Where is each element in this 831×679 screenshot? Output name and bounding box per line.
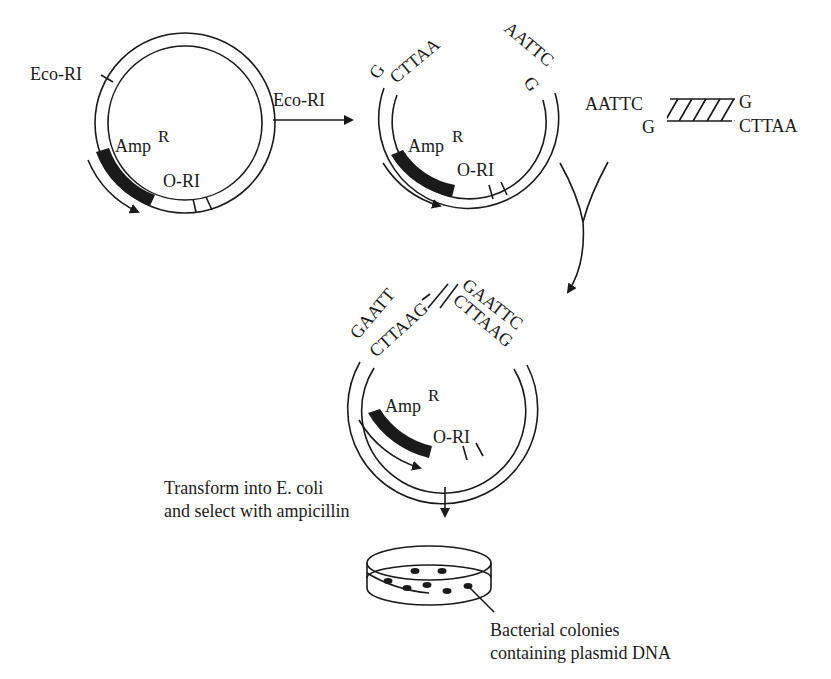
ampr-label: Amp	[408, 136, 444, 156]
ampr-superscript: R	[428, 386, 440, 405]
bacterial-colonies	[384, 568, 473, 594]
right-end-bottom: G	[520, 73, 544, 95]
insert-hatched-block	[667, 99, 735, 121]
plasmid-recombinant: GAATT CTTAAG GAATTC CTTAAG Amp R O-RI	[346, 274, 538, 503]
insert-right-bottom: CTTAA	[739, 116, 798, 136]
digest-step: Eco-RI	[273, 90, 352, 120]
transform-text-line-1: Transform into E. coli	[164, 478, 323, 498]
transform-step: Transform into E. coli and select with a…	[164, 478, 445, 521]
ori-label: O-RI	[433, 427, 470, 447]
ori-label: O-RI	[163, 171, 200, 191]
ori-label: O-RI	[457, 160, 494, 180]
cloning-diagram: Eco-RI Amp R O-RI Eco-RI G CTTAA AATTC G…	[0, 0, 831, 679]
insert-fragment: AATTC G G CTTAA	[585, 92, 798, 137]
petri-dish: Bacterial colonies containing plasmid DN…	[367, 546, 671, 663]
insert-left-bottom: G	[642, 117, 655, 137]
ampr-superscript: R	[158, 127, 170, 146]
ampr-superscript: R	[452, 127, 464, 146]
insert-left-top: AATTC	[585, 94, 643, 114]
ampr-label: Amp	[115, 136, 151, 156]
colonies-label-line-2: containing plasmid DNA	[490, 643, 671, 663]
plasmid-linearized: G CTTAA AATTC G Amp R O-RI	[365, 18, 559, 209]
ecori-site-marker	[101, 75, 113, 82]
colonies-label-line-1: Bacterial colonies	[490, 620, 619, 640]
ligation-arrow-icon	[568, 222, 583, 292]
left-end-bottom: CTTAA	[386, 34, 444, 87]
digest-enzyme-label: Eco-RI	[273, 90, 325, 110]
ampr-gene-block	[368, 409, 432, 458]
ecori-label: Eco-RI	[30, 64, 82, 84]
ampr-label: Amp	[385, 396, 421, 416]
plasmid-intact: Eco-RI Amp R O-RI	[30, 33, 275, 213]
transform-text-line-2: and select with ampicillin	[164, 501, 349, 521]
ampr-gene-block	[391, 150, 455, 197]
right-end-top: AATTC	[500, 18, 557, 71]
insert-right-top: G	[739, 92, 752, 112]
ampr-gene-block	[96, 148, 155, 206]
ligation-arrow	[560, 162, 608, 292]
